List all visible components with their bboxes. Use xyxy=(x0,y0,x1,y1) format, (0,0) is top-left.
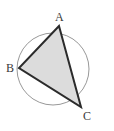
vertex-label-a: A xyxy=(55,11,64,23)
vertex-label-b: B xyxy=(6,62,14,74)
vertex-label-c: C xyxy=(83,110,91,122)
geometry-figure: A B C xyxy=(0,0,114,131)
